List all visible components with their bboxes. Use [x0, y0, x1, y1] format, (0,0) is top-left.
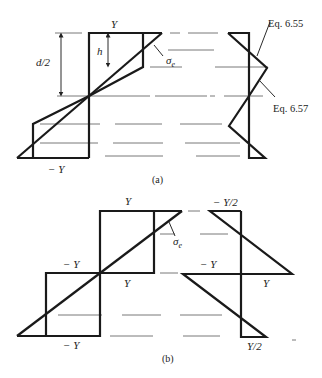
half-depth-label: d/2 — [36, 56, 51, 68]
mid-right-stress-label-b: Y — [124, 277, 132, 289]
elastic-stress-leader-a — [154, 45, 163, 56]
residual-top-label: − Y/2 — [213, 196, 238, 208]
residual-mid-right-label: Y — [263, 277, 271, 289]
bottom-stress-label-b: − Y — [63, 339, 81, 351]
figure-b: σe Y − Y Y − Y − Y/2 − Y Y Y/2 (b) — [17, 195, 296, 365]
stress-distribution-figure: d/2 h σe Y − Y Eq. 6.55 Eq. 6.57 (a) — [0, 0, 322, 378]
eq-upper-label: Eq. 6.55 — [268, 18, 303, 29]
guide-lines-b — [58, 211, 296, 340]
elastic-stress-label-b: σe — [173, 235, 182, 250]
eq-lower-label: Eq. 6.57 — [273, 103, 308, 114]
elastic-core-label: h — [97, 45, 103, 57]
residual-mid-left-label: − Y — [200, 258, 218, 270]
top-stress-label-b: Y — [125, 195, 133, 207]
guide-lines-a — [40, 33, 268, 156]
residual-bottom-label: Y/2 — [247, 340, 262, 352]
top-stress-label-a: Y — [111, 18, 119, 30]
caption-b: (b) — [162, 353, 174, 365]
eq-lower-leader — [259, 80, 275, 97]
figure-a: d/2 h σe Y − Y Eq. 6.55 Eq. 6.57 (a) — [17, 18, 308, 186]
residual-stress-profile-a — [228, 33, 267, 158]
caption-a: (a) — [152, 174, 163, 186]
residual-stress-profile-b — [183, 211, 292, 337]
mid-left-stress-label-b: − Y — [63, 258, 81, 270]
bottom-stress-label-a: − Y — [48, 163, 66, 175]
